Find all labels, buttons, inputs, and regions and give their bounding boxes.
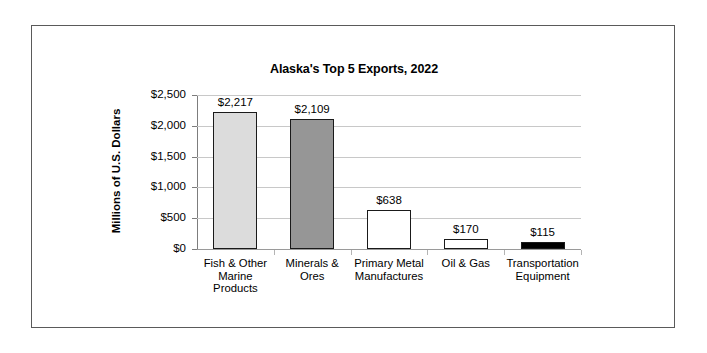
y-axis-tick-label: $2,500 — [116, 89, 186, 101]
gridline — [197, 95, 581, 96]
x-axis-separator-tick — [274, 250, 275, 255]
y-axis-tick-mark — [192, 187, 197, 188]
y-axis-tick-label: $0 — [116, 243, 186, 255]
category-label-line: Primary Metal — [351, 257, 428, 270]
y-axis-tick-label: $1,000 — [116, 181, 186, 193]
y-axis-tick-mark — [192, 126, 197, 127]
chart-frame: Alaska's Top 5 Exports, 2022 Millions of… — [31, 25, 675, 328]
y-axis-tick-mark — [192, 157, 197, 158]
category-label-line: Minerals & — [274, 257, 351, 270]
x-axis-category-label: TransportationEquipment — [504, 257, 581, 282]
y-axis-tick-mark — [192, 95, 197, 96]
bar-3[interactable] — [367, 210, 411, 249]
x-axis-line — [197, 249, 581, 250]
category-label-line: Oil & Gas — [427, 257, 504, 270]
category-label-line: Equipment — [504, 270, 581, 283]
category-label-line: Products — [197, 282, 274, 295]
bar-2[interactable] — [290, 119, 334, 249]
category-label-line: Marine — [197, 270, 274, 283]
y-axis-tick-label: $500 — [116, 212, 186, 224]
x-axis-category-label: Oil & Gas — [427, 257, 504, 270]
x-axis-category-label: Primary MetalManufactures — [351, 257, 428, 282]
y-axis-tick-mark — [192, 218, 197, 219]
category-label-line: Manufactures — [351, 270, 428, 283]
y-axis-tick-mark — [192, 249, 197, 250]
x-axis-separator-tick — [581, 250, 582, 255]
category-label-line: Transportation — [504, 257, 581, 270]
y-axis-tick-label: $2,000 — [116, 120, 186, 132]
bar-value-label: $170 — [426, 224, 506, 236]
plot-area — [197, 95, 581, 249]
x-axis-category-label: Fish & OtherMarineProducts — [197, 257, 274, 295]
bar-1[interactable] — [213, 112, 257, 249]
x-axis-separator-tick — [427, 250, 428, 255]
bar-value-label: $115 — [503, 227, 583, 239]
bar-value-label: $638 — [349, 195, 429, 207]
bar-value-label: $2,217 — [195, 97, 275, 109]
bar-5[interactable] — [521, 242, 565, 249]
x-axis-category-label: Minerals &Ores — [274, 257, 351, 282]
bar-value-label: $2,109 — [272, 104, 352, 116]
category-label-line: Fish & Other — [197, 257, 274, 270]
bar-4[interactable] — [444, 239, 488, 249]
y-axis-tick-label: $1,500 — [116, 151, 186, 163]
category-label-line: Ores — [274, 270, 351, 283]
y-axis-tick-labels: $2,500$2,000$1,500$1,000$500$0 — [114, 26, 186, 329]
x-axis-separator-tick — [504, 250, 505, 255]
x-axis-separator-tick — [351, 250, 352, 255]
